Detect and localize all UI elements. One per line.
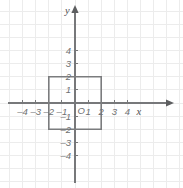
y-tick-label: –1 <box>59 111 71 122</box>
x-tick-label: –3 <box>29 106 41 117</box>
origin-label: O <box>78 105 86 116</box>
y-axis-label: y <box>64 5 70 16</box>
y-axis-arrow-icon <box>71 5 78 13</box>
coordinate-plane-figure: –4–3–2–112344321–1–2–3–4 O x y <box>0 0 183 188</box>
x-tick-label: 3 <box>112 106 118 117</box>
x-axis-label: x <box>135 106 141 117</box>
coordinate-plane-svg: –4–3–2–112344321–1–2–3–4 O x y <box>0 0 183 188</box>
y-tick-label: 3 <box>66 58 72 69</box>
y-tick-label: 1 <box>66 84 71 95</box>
x-axis-arrow-icon <box>166 99 174 106</box>
x-tick-label: 2 <box>98 106 105 117</box>
y-tick-label: –4 <box>59 150 71 161</box>
grid-layer <box>0 0 183 188</box>
x-tick-label: –4 <box>16 106 28 117</box>
y-tick-label: 2 <box>65 71 72 82</box>
x-tick-label: 4 <box>125 106 130 117</box>
y-tick-label: –2 <box>59 124 71 135</box>
y-tick-label: –3 <box>59 137 71 148</box>
y-tick-label: 4 <box>66 45 71 56</box>
x-tick-label: 1 <box>85 106 90 117</box>
x-tick-label: –2 <box>43 106 55 117</box>
axes-layer <box>8 5 174 183</box>
